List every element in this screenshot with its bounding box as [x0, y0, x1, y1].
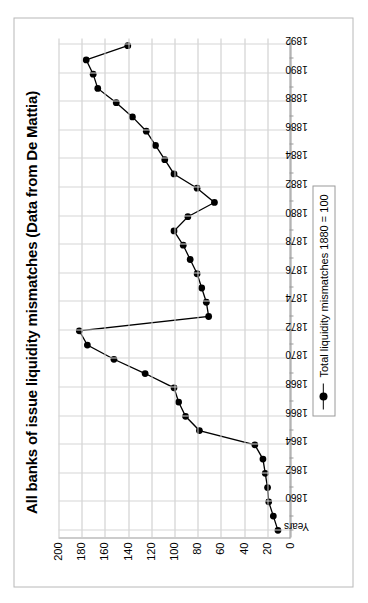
y-gridline — [58, 38, 59, 537]
data-point-marker — [205, 313, 212, 320]
legend-marker-icon — [318, 383, 328, 409]
x-axis-tick-label: 1892 — [285, 34, 307, 44]
data-point-marker — [152, 142, 159, 149]
y-gridline — [104, 38, 105, 537]
x-axis-tick — [289, 86, 293, 87]
data-point-marker — [83, 341, 90, 348]
x-axis-tick-label: 1890 — [285, 63, 307, 73]
x-axis-tick-label: 1866 — [285, 406, 307, 416]
x-gridline — [58, 186, 289, 187]
legend-entry-label: Total liquidity mismatches 1880 = 100 — [317, 194, 329, 377]
data-point-marker — [170, 170, 177, 177]
y-axis-tick-label: 160 — [99, 542, 110, 572]
data-point-marker — [94, 85, 101, 92]
x-gridline — [58, 357, 289, 358]
y-axis-tick-label: 200 — [53, 542, 64, 572]
y-axis-tick-label: 120 — [145, 542, 156, 572]
y-axis-tick-label: 80 — [192, 542, 203, 572]
x-axis-tick — [289, 343, 293, 344]
chart-legend: Total liquidity mismatches 1880 = 100 — [312, 185, 335, 416]
y-gridline — [197, 38, 198, 537]
x-axis-tick-label: 1868 — [285, 377, 307, 387]
y-axis-tick-label: 40 — [238, 542, 249, 572]
x-axis-tick-label: 1870 — [285, 348, 307, 358]
series-line-chart — [58, 38, 289, 537]
data-point-marker — [269, 512, 276, 519]
y-gridline — [128, 38, 129, 537]
y-axis-tick-label: 140 — [122, 542, 133, 572]
x-gridline — [58, 472, 289, 473]
x-axis-tick-label: 1888 — [285, 91, 307, 101]
chart-title: All banks of issue liquidity mismatches … — [22, 18, 39, 586]
x-gridline — [58, 529, 289, 530]
y-gridline — [244, 38, 245, 537]
data-point-marker — [179, 241, 186, 248]
x-axis-tick — [289, 372, 293, 373]
data-point-marker — [161, 156, 168, 163]
y-axis-tick-label: 20 — [261, 542, 272, 572]
x-axis-tick — [289, 229, 293, 230]
data-point-marker — [170, 227, 177, 234]
x-axis-tick — [289, 400, 293, 401]
x-gridline — [58, 272, 289, 273]
data-point-marker — [82, 56, 89, 63]
y-gridline — [267, 38, 268, 537]
data-point-marker — [175, 398, 182, 405]
x-axis-tick-label: 1878 — [285, 234, 307, 244]
x-gridline — [58, 72, 289, 73]
x-gridline — [58, 157, 289, 158]
x-axis-tick-label: 1882 — [285, 177, 307, 187]
x-axis-tick-label: 1874 — [285, 291, 307, 301]
x-axis-tick — [289, 486, 293, 487]
x-axis-tick — [289, 429, 293, 430]
x-gridline — [58, 500, 289, 501]
x-axis-tick-label: 1884 — [285, 148, 307, 158]
y-gridline — [174, 38, 175, 537]
data-point-marker — [186, 256, 193, 263]
plot-area: 020406080100120140160180200Years18601862… — [58, 38, 290, 538]
x-axis-tick — [289, 457, 293, 458]
y-gridline — [151, 38, 152, 537]
y-axis-tick-label: 100 — [169, 542, 180, 572]
x-gridline — [58, 415, 289, 416]
x-gridline — [58, 386, 289, 387]
x-axis-tick — [289, 286, 293, 287]
rotated-chart-stage: All banks of issue liquidity mismatches … — [0, 0, 368, 603]
y-gridline — [81, 38, 82, 537]
x-axis-tick — [289, 315, 293, 316]
x-axis-tick — [289, 515, 293, 516]
x-axis-tick — [289, 172, 293, 173]
x-gridline — [58, 43, 289, 44]
x-gridline — [58, 329, 289, 330]
x-axis-tick — [289, 115, 293, 116]
x-axis-tick-label: 1862 — [285, 463, 307, 473]
data-point-marker — [198, 284, 205, 291]
y-axis-tick-label: 0 — [285, 542, 296, 572]
x-axis-tick — [289, 143, 293, 144]
data-point-marker — [193, 184, 200, 191]
x-gridline — [58, 300, 289, 301]
x-gridline — [58, 243, 289, 244]
chart-frame: All banks of issue liquidity mismatches … — [13, 17, 353, 587]
x-gridline — [58, 215, 289, 216]
x-gridline — [58, 129, 289, 130]
data-point-marker — [141, 370, 148, 377]
y-gridline — [220, 38, 221, 537]
x-axis-tick — [289, 200, 293, 201]
x-axis-tick-label: 1860 — [285, 491, 307, 501]
x-axis-tick — [289, 257, 293, 258]
x-axis-tick-label: 1876 — [285, 263, 307, 273]
y-gridline — [290, 38, 291, 537]
series-line — [79, 45, 278, 530]
x-axis-tick-label: 1886 — [285, 120, 307, 130]
x-axis-tick-label: Years — [283, 520, 308, 530]
data-point-marker — [184, 213, 191, 220]
y-axis-tick-label: 180 — [76, 542, 87, 572]
x-axis-tick-label: 1872 — [285, 320, 307, 330]
x-axis-tick-label: 1880 — [285, 206, 307, 216]
y-axis-tick-label: 60 — [215, 542, 226, 572]
x-axis-tick-label: 1864 — [285, 434, 307, 444]
x-axis-tick — [289, 57, 293, 58]
x-gridline — [58, 100, 289, 101]
x-gridline — [58, 443, 289, 444]
